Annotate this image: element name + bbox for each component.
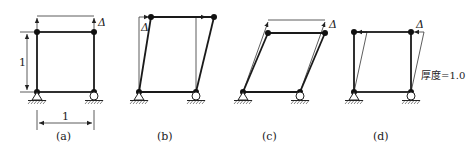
delta-label-a: Δ: [97, 16, 106, 29]
panel-label-a: (a): [56, 130, 71, 143]
panel-label-c: (c): [262, 130, 277, 143]
pin-support-icon: [130, 92, 148, 104]
delta-label-d: Δ: [415, 18, 424, 31]
width-dimension-label: 1: [62, 110, 69, 123]
delta-label-c: Δ: [328, 18, 337, 31]
frame-deformation-figure: Δ 1 1 (a) Δ (b): [0, 0, 470, 157]
panel-d: Δ 厚度=1.0 (d): [345, 18, 465, 143]
panel-a: Δ 1 1 (a): [19, 16, 106, 143]
frame-a: [37, 32, 94, 92]
panel-b: Δ (b): [130, 14, 217, 143]
frame-d: [354, 32, 411, 92]
height-dimension-label: 1: [19, 56, 26, 69]
panel-label-d: (d): [373, 130, 389, 143]
pin-support-icon: [345, 92, 363, 104]
roller-support-icon: [187, 92, 205, 104]
delta-label-b: Δ: [140, 21, 149, 34]
panel-c: Δ (c): [234, 18, 337, 143]
thickness-note: 厚度=1.0: [421, 69, 465, 81]
roller-support-icon: [402, 92, 420, 104]
pin-support-icon: [234, 92, 252, 104]
pin-support-icon: [28, 92, 46, 104]
panel-label-b: (b): [157, 130, 173, 143]
roller-support-icon: [85, 92, 103, 104]
roller-support-icon: [291, 92, 309, 104]
